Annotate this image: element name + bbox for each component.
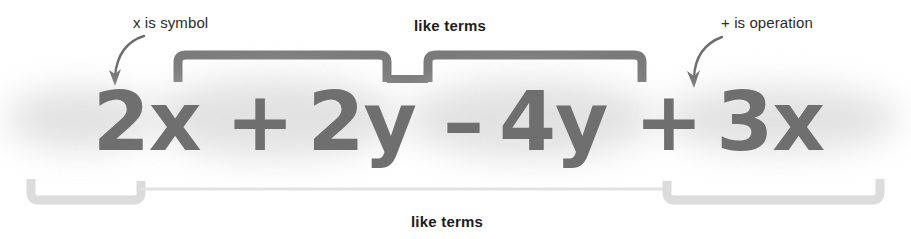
algebra-like-terms-figure: 2x + 2y – 4y + 3x x is symbol like te: [0, 0, 911, 239]
expression-term-2x: 2x: [91, 81, 203, 163]
label-like-terms-bottom: like terms: [411, 213, 483, 230]
bottom-bracket-left: [31, 179, 141, 200]
label-like-terms-top: like terms: [414, 17, 486, 34]
label-x-is-symbol: x is symbol: [133, 14, 208, 31]
expression-term-3x: 3x: [714, 81, 826, 163]
expression-operator-minus: –: [434, 81, 493, 163]
expression-operator-plus-1: +: [217, 81, 304, 163]
expression-term-4y: 4y: [497, 81, 610, 163]
algebraic-expression: 2x + 2y – 4y + 3x: [0, 69, 911, 174]
label-plus-is-operation: + is operation: [721, 14, 813, 31]
expression-term-2y: 2y: [305, 81, 418, 163]
expression-operator-plus-2: +: [626, 81, 713, 163]
bottom-bracket-right: [667, 179, 880, 200]
